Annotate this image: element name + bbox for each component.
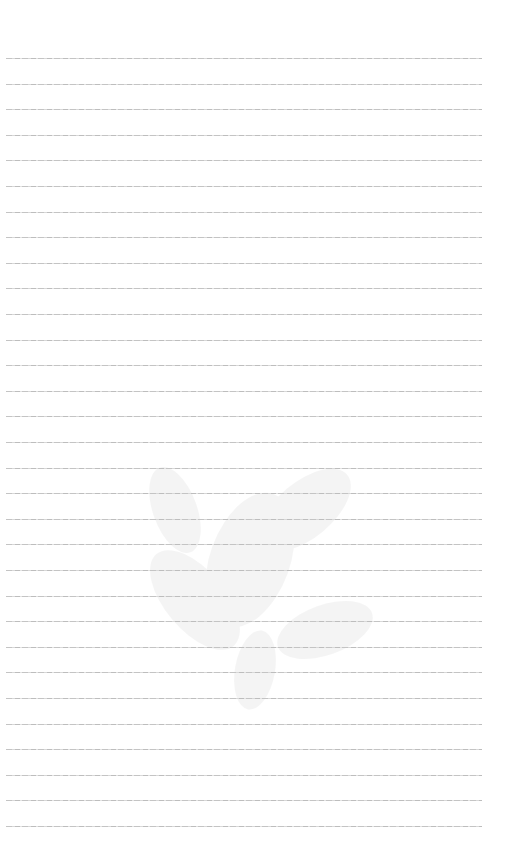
ruled-line bbox=[6, 672, 482, 673]
ruled-line bbox=[6, 263, 482, 264]
ruled-line bbox=[6, 826, 482, 827]
ruled-line bbox=[6, 621, 482, 622]
ruled-line bbox=[6, 391, 482, 392]
ruled-line bbox=[6, 340, 482, 341]
ruled-line bbox=[6, 109, 482, 110]
ruled-line bbox=[6, 544, 482, 545]
ruled-line bbox=[6, 442, 482, 443]
ruled-line bbox=[6, 237, 482, 238]
ruled-line bbox=[6, 519, 482, 520]
ruled-line bbox=[6, 698, 482, 699]
ruled-line bbox=[6, 58, 482, 59]
ruled-line bbox=[6, 84, 482, 85]
ruled-line bbox=[6, 186, 482, 187]
ruled-line bbox=[6, 724, 482, 725]
ruled-line bbox=[6, 468, 482, 469]
ruled-line bbox=[6, 775, 482, 776]
ruled-line bbox=[6, 596, 482, 597]
ruled-line bbox=[6, 800, 482, 801]
ruled-line bbox=[6, 212, 482, 213]
ruled-line bbox=[6, 160, 482, 161]
ruled-line bbox=[6, 749, 482, 750]
ruled-page bbox=[0, 0, 516, 867]
ruled-line bbox=[6, 493, 482, 494]
ruled-line bbox=[6, 288, 482, 289]
ruled-line bbox=[6, 314, 482, 315]
ruled-line bbox=[6, 135, 482, 136]
ruled-line bbox=[6, 365, 482, 366]
ruled-line bbox=[6, 647, 482, 648]
ruled-line bbox=[6, 416, 482, 417]
ruled-line bbox=[6, 570, 482, 571]
